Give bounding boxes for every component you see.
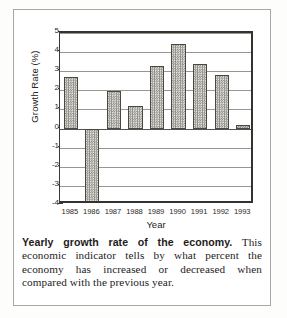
y-tick-label: 5 [43,27,59,35]
y-tick-label: 3 [43,65,59,73]
x-tick-label-1991: 1991 [188,207,210,216]
x-tick-label-1987: 1987 [102,207,124,216]
caption-lead-text: Yearly growth rate of the economy. [22,236,232,248]
bar-1985 [64,77,78,129]
x-tick-label-1988: 1988 [124,207,146,216]
y-tick-label: 2 [43,84,59,92]
x-tick-label-1993: 1993 [231,207,253,216]
bar-1993 [236,125,250,129]
bar-1986 [85,129,99,203]
y-axis-ticks: 543210-1-2-3-4 [39,31,59,203]
plot-area [59,31,253,203]
x-tick-label-1985: 1985 [59,207,81,216]
y-tick-label: -4 [43,199,59,207]
gridline [60,33,251,34]
bar-1989 [150,66,164,128]
bar-1987 [107,91,121,128]
y-tick-label: 1 [43,103,59,111]
bar-1990 [171,44,185,129]
y-tick-label: -3 [43,180,59,188]
y-axis-title: Growth Rate (%) [29,35,40,139]
y-tick-label: -2 [43,161,59,169]
x-tick-label-1992: 1992 [210,207,232,216]
x-tick-label-1990: 1990 [167,207,189,216]
bar-1992 [215,75,229,129]
x-axis-title: Year [59,219,253,230]
x-axis-tick-labels: 198519861987198819891990199119921993 [59,207,253,219]
page-background: Growth Rate (%) 543210-1-2-3-4 198519861… [0,0,287,318]
gridline [60,52,251,53]
x-tick-label-1989: 1989 [145,207,167,216]
figure-caption: Yearly growth rate of the economy. This … [22,236,262,290]
y-tick-label: 0 [43,123,59,131]
y-tick-label: 4 [43,46,59,54]
bar-chart-figure: Growth Rate (%) 543210-1-2-3-4 198519861… [13,9,271,229]
y-tick-label: -1 [43,142,59,150]
bar-1988 [128,106,142,129]
bar-1991 [193,64,207,129]
x-tick-label-1986: 1986 [81,207,103,216]
